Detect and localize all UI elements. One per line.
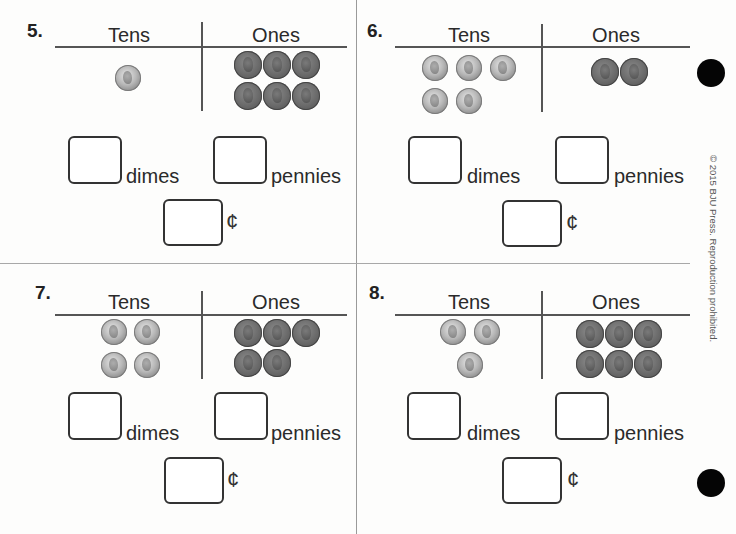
dime-coin-icon	[115, 65, 141, 91]
problem-number: 6.	[367, 20, 383, 42]
copyright-notice: © 2015 BJU Press. Reproduction prohibite…	[708, 155, 719, 342]
dime-coin-icon	[457, 352, 483, 378]
penny-coin-icon	[576, 320, 604, 348]
dimes-label: dimes	[126, 422, 179, 445]
pennies-answer-box[interactable]	[213, 136, 267, 184]
penny-coin-icon	[634, 320, 662, 348]
penny-coin-icon	[263, 51, 291, 79]
column-divider	[541, 24, 543, 112]
hole-punch-dot-top	[697, 59, 725, 87]
dime-coin-icon	[474, 319, 500, 345]
penny-coin-icon	[605, 350, 633, 378]
cents-answer-box[interactable]	[502, 200, 562, 247]
cent-sign: ¢	[226, 209, 238, 235]
vertical-divider	[356, 0, 357, 534]
cent-sign: ¢	[567, 467, 579, 493]
cent-sign: ¢	[227, 467, 239, 493]
cents-answer-box[interactable]	[502, 457, 562, 504]
penny-coin-icon	[234, 82, 262, 110]
hole-punch-dot-bottom	[697, 469, 725, 497]
dimes-label: dimes	[467, 165, 520, 188]
penny-coin-icon	[576, 350, 604, 378]
dime-coin-icon	[490, 55, 516, 81]
dimes-label: dimes	[467, 422, 520, 445]
pennies-label: pennies	[614, 422, 684, 445]
penny-coin-icon	[234, 51, 262, 79]
pennies-answer-box[interactable]	[214, 392, 268, 440]
pennies-answer-box[interactable]	[555, 136, 609, 184]
penny-coin-icon	[292, 82, 320, 110]
dime-coin-icon	[422, 55, 448, 81]
penny-coin-icon	[263, 82, 291, 110]
pennies-label: pennies	[614, 165, 684, 188]
dimes-label: dimes	[126, 165, 179, 188]
dime-coin-icon	[134, 352, 160, 378]
pennies-answer-box[interactable]	[555, 392, 609, 440]
dime-coin-icon	[101, 352, 127, 378]
penny-coin-icon	[620, 58, 648, 86]
dimes-answer-box[interactable]	[68, 136, 122, 184]
tens-header: Tens	[56, 24, 202, 47]
dimes-answer-box[interactable]	[68, 392, 122, 440]
ones-header: Ones	[543, 291, 689, 314]
dime-coin-icon	[101, 319, 127, 345]
column-divider	[201, 22, 203, 111]
cent-sign: ¢	[566, 210, 578, 236]
penny-coin-icon	[234, 319, 262, 347]
penny-coin-icon	[263, 349, 291, 377]
column-divider	[201, 291, 203, 379]
dimes-answer-box[interactable]	[408, 136, 462, 184]
horizontal-divider	[0, 263, 690, 264]
penny-coin-icon	[263, 319, 291, 347]
dime-coin-icon	[134, 319, 160, 345]
penny-coin-icon	[605, 320, 633, 348]
tens-header: Tens	[56, 291, 202, 314]
cents-answer-box[interactable]	[163, 199, 223, 246]
dime-coin-icon	[456, 55, 482, 81]
dime-coin-icon	[422, 88, 448, 114]
penny-coin-icon	[292, 51, 320, 79]
pennies-label: pennies	[271, 422, 341, 445]
dimes-answer-box[interactable]	[407, 392, 461, 440]
problem-number: 8.	[369, 282, 385, 304]
penny-coin-icon	[292, 319, 320, 347]
pennies-label: pennies	[271, 165, 341, 188]
cents-answer-box[interactable]	[164, 457, 224, 504]
column-divider	[541, 291, 543, 379]
ones-header: Ones	[543, 24, 689, 47]
ones-header: Ones	[203, 291, 349, 314]
tens-header: Tens	[396, 291, 542, 314]
penny-coin-icon	[634, 350, 662, 378]
penny-coin-icon	[234, 349, 262, 377]
problem-number: 5.	[27, 20, 43, 42]
dime-coin-icon	[440, 319, 466, 345]
ones-header: Ones	[203, 24, 349, 47]
tens-header: Tens	[396, 24, 542, 47]
penny-coin-icon	[591, 58, 619, 86]
dime-coin-icon	[456, 88, 482, 114]
problem-number: 7.	[35, 282, 51, 304]
